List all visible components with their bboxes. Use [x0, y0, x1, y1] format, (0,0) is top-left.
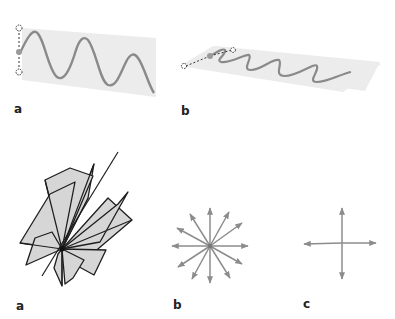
panel-label: a: [14, 102, 22, 116]
radial-vectors-diagram: [140, 150, 290, 319]
amplitude-bottom-marker: [16, 69, 22, 75]
origin-dot: [207, 53, 213, 59]
panel-label: a: [16, 299, 24, 313]
amplitude-left-marker: [181, 63, 186, 68]
panel-label: b: [173, 298, 182, 312]
horizontal-wave-diagram: [165, 0, 395, 135]
component-vectors: [304, 208, 376, 279]
panel-label: b: [181, 104, 190, 118]
panel-top-b: b: [165, 0, 395, 135]
amplitude-top-marker: [16, 25, 22, 31]
panel-label: c: [303, 297, 310, 311]
panel-bottom-b: b: [140, 150, 290, 319]
panel-top-a: a: [0, 0, 165, 135]
perpendicular-components-diagram: [290, 150, 395, 319]
vertical-wave-diagram: [0, 0, 165, 135]
center-point: [60, 247, 65, 252]
intersecting-planes-diagram: [0, 150, 140, 319]
panel-bottom-a: a: [0, 150, 140, 319]
amplitude-right-marker: [231, 48, 236, 53]
center-point: [208, 244, 212, 248]
vibration-plane: [22, 28, 156, 97]
panel-bottom-c: c: [290, 150, 395, 319]
origin-dot: [16, 49, 22, 55]
